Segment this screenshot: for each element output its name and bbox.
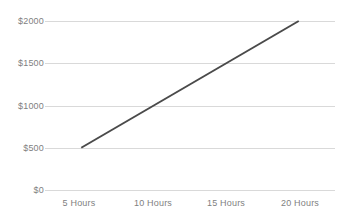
series-layer: [0, 0, 352, 223]
line-chart: $2000 $1500 $1000 $500 $0 5 Hours 10 Hou…: [0, 0, 352, 223]
data-line-cost: [81, 21, 299, 148]
